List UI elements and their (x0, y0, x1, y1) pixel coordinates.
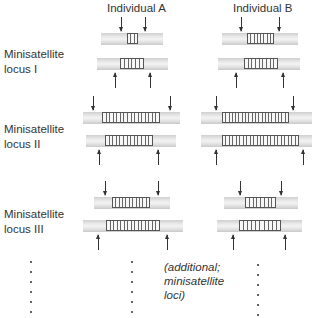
tandem-repeat-block (112, 197, 150, 208)
ellipsis-dot (30, 281, 32, 283)
tandem-repeat-block (105, 135, 153, 146)
dna-segment-locus-II-a-bottom (86, 135, 176, 147)
tandem-repeat-block (244, 58, 278, 69)
dna-segment-locus-II-a-top (83, 112, 180, 124)
ellipsis-dot (131, 311, 133, 313)
repeat-unit (296, 136, 298, 145)
repeat-unit (149, 136, 152, 145)
tandem-repeat-block (127, 33, 138, 44)
up-arrow-icon (303, 150, 304, 165)
up-arrow-icon (150, 73, 151, 88)
tandem-repeat-block (247, 33, 274, 44)
ellipsis-dot (257, 294, 259, 296)
repeat-unit (140, 59, 143, 68)
down-arrow-icon (279, 17, 280, 31)
dna-segment-locus-II-b-top (201, 112, 312, 124)
ellipsis-dot (30, 311, 32, 313)
repeat-unit (135, 34, 137, 43)
ellipsis-dot (257, 314, 259, 316)
repeat-unit (147, 198, 149, 207)
header-individual-a: Individual A (107, 2, 166, 14)
dna-segment-locus-I-a-top (101, 33, 163, 45)
up-arrow-icon (233, 235, 234, 250)
down-arrow-icon (216, 96, 217, 110)
down-arrow-icon (293, 96, 294, 110)
repeat-unit (286, 113, 288, 122)
ellipsis-dot (30, 261, 32, 263)
up-arrow-icon (285, 235, 286, 250)
locus-label-line: locus I (4, 62, 64, 77)
dna-segment-locus-III-b-bottom (217, 220, 302, 232)
ellipsis-dot (257, 274, 259, 276)
repeat-unit (271, 34, 273, 43)
locus-label-line: Minisatellite (4, 122, 64, 137)
dna-segment-locus-III-a-top (94, 197, 170, 209)
up-arrow-icon (98, 235, 99, 250)
up-arrow-icon (283, 73, 284, 88)
dna-segment-locus-I-b-bottom (218, 58, 300, 70)
dna-segment-locus-I-a-bottom (97, 58, 168, 70)
repeat-unit (156, 113, 159, 122)
note-line: loci) (164, 288, 224, 302)
up-arrow-icon (115, 73, 116, 88)
locus-label-line: Minisatellite (4, 47, 64, 62)
dna-segment-locus-III-b-top (224, 197, 298, 209)
down-arrow-icon (158, 181, 159, 195)
ellipsis-dot (257, 304, 259, 306)
locus-label-line: locus II (4, 137, 64, 152)
up-arrow-icon (236, 73, 237, 88)
locus-label-2: Minisatellite locus II (4, 122, 64, 152)
tandem-repeat-block (222, 135, 299, 146)
note-line: (additional; (164, 260, 224, 274)
up-arrow-icon (167, 235, 168, 250)
repeat-unit (274, 59, 277, 68)
down-arrow-icon (145, 17, 146, 31)
locus-label-line: Minisatellite (4, 207, 64, 222)
up-arrow-icon (158, 150, 159, 165)
additional-loci-note: (additional; minisatellite loci) (164, 260, 224, 302)
tandem-repeat-block (222, 112, 289, 123)
tandem-repeat-block (239, 220, 281, 231)
down-arrow-icon (121, 17, 122, 31)
header-individual-b: Individual B (233, 2, 292, 14)
ellipsis-dot (131, 281, 133, 283)
ellipsis-dot (131, 291, 133, 293)
locus-label-line: locus III (4, 222, 64, 237)
tandem-repeat-block (102, 112, 160, 123)
down-arrow-icon (105, 181, 106, 195)
repeat-unit (277, 221, 280, 230)
down-arrow-icon (240, 181, 241, 195)
tandem-repeat-block (106, 220, 160, 231)
ellipsis-dot (131, 271, 133, 273)
repeat-unit (272, 198, 275, 207)
ellipsis-dot (257, 284, 259, 286)
up-arrow-icon (216, 150, 217, 165)
down-arrow-icon (93, 96, 94, 110)
tandem-repeat-block (120, 58, 144, 69)
ellipsis-dot (30, 291, 32, 293)
ellipsis-dot (131, 261, 133, 263)
tandem-repeat-block (245, 197, 276, 208)
dna-segment-locus-III-a-bottom (83, 220, 183, 232)
ellipsis-dot (30, 301, 32, 303)
ellipsis-dot (257, 264, 259, 266)
repeat-unit (156, 221, 159, 230)
down-arrow-icon (170, 96, 171, 110)
down-arrow-icon (241, 17, 242, 31)
locus-label-1: Minisatellite locus I (4, 47, 64, 77)
note-line: minisatellite (164, 274, 224, 288)
ellipsis-dot (30, 271, 32, 273)
up-arrow-icon (99, 150, 100, 165)
ellipsis-dot (131, 301, 133, 303)
dna-segment-locus-I-b-top (222, 33, 298, 45)
locus-label-3: Minisatellite locus III (4, 207, 64, 237)
down-arrow-icon (281, 181, 282, 195)
dna-segment-locus-II-b-bottom (201, 135, 312, 147)
